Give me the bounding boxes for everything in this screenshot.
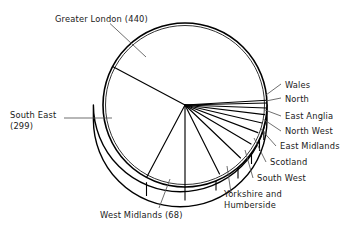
label-east-anglia: East Anglia xyxy=(285,111,333,122)
label-north-west: North West xyxy=(285,126,333,137)
label-scotland: Scotland xyxy=(270,157,307,168)
label-yorkshire-line2: Humberside xyxy=(224,200,276,211)
label-yorkshire-line1: Yorkshire and xyxy=(224,189,282,200)
label-wales: Wales xyxy=(285,80,310,91)
pie-chart-figure: Greater London (440) South East (299) We… xyxy=(0,0,351,237)
label-south-east-line1: South East xyxy=(10,110,56,121)
leader-north xyxy=(266,98,281,101)
leader-wales xyxy=(266,84,281,95)
label-east-midlands: East Midlands xyxy=(280,141,340,152)
label-west-midlands: West Midlands (68) xyxy=(100,210,183,221)
label-south-east-line2: (299) xyxy=(10,121,33,132)
label-greater-london: Greater London (440) xyxy=(55,14,148,25)
label-north: North xyxy=(285,94,309,105)
label-south-west: South West xyxy=(257,173,306,184)
